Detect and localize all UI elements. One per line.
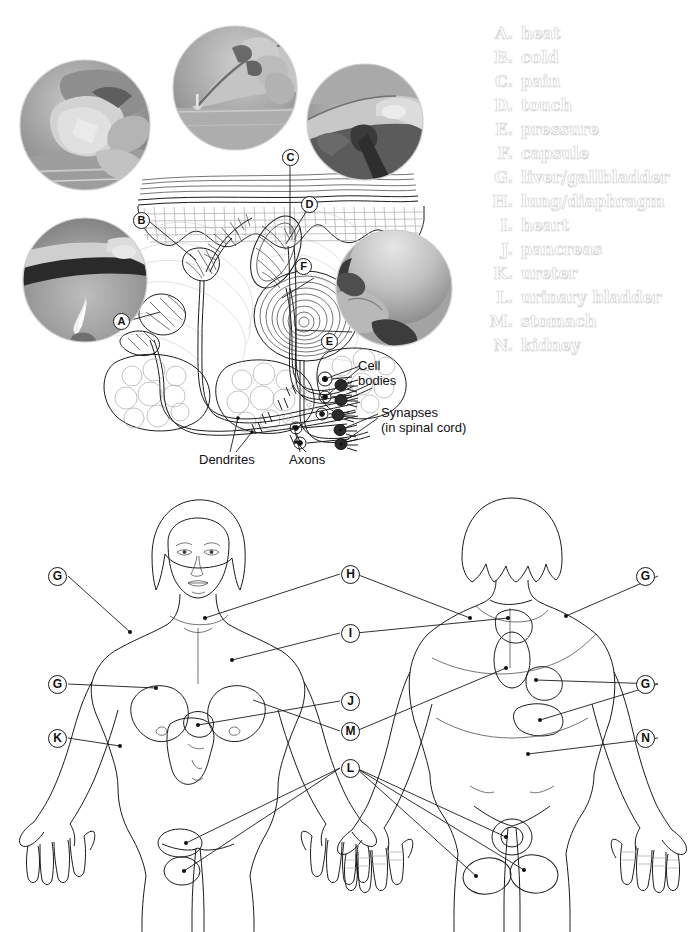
legend-letter: F. [487,142,513,166]
tag-g-back-shoulder[interactable]: G [636,567,655,586]
legend-letter: A. [487,22,513,46]
tag-b-cold[interactable]: B [133,212,150,229]
legend-letter: E. [487,118,513,142]
legend-letter: L. [487,286,513,310]
posterior-female-figure [337,498,686,932]
legend-item-i: I.heart [487,214,687,238]
legend-letter: N. [487,334,513,358]
legend-letter: I. [487,214,513,238]
tag-j-front-pancreas[interactable]: J [341,692,360,711]
krause-end-bulb-receptor [183,248,220,336]
legend-letter: D. [487,94,513,118]
tag-g-front-shoulder[interactable]: G [48,567,67,586]
anterior-female-figure [19,500,376,932]
legend-label: pain [521,72,560,91]
synapses-label: Synapses (in spinal cord) [381,405,466,435]
touch-photo [307,64,427,180]
legend-item-f: F.capsule [487,142,687,166]
tag-m-stomach[interactable]: M [341,722,360,741]
legend-letter: J. [487,238,513,262]
legend-letter: B. [487,46,513,70]
tag-g-front-liver[interactable]: G [48,675,67,694]
legend-label: liver/gallbladder [521,168,669,187]
legend-item-h: H.lung/diaphragm [487,190,687,214]
tag-a-heat[interactable]: A [113,313,130,330]
legend-letter: M. [487,310,513,334]
posterior-leaders [356,574,658,878]
legend-item-a: A.heat [487,22,687,46]
legend-item-c: C.pain [487,70,687,94]
legend-item-d: D.touch [487,94,687,118]
tag-l-bladder[interactable]: L [341,759,360,778]
tag-d-touch[interactable]: D [301,196,318,213]
legend-label: heat [521,24,561,43]
tag-i-front-heart[interactable]: I [341,624,360,643]
legend-item-l: L.urinary bladder [487,286,687,310]
legend-item-g: G.liver/gallbladder [487,166,687,190]
legend-label: urinary bladder [521,288,661,307]
axons-label: Axons [289,452,325,467]
tag-c-pain[interactable]: C [282,149,299,166]
cell-bodies-label: Cell bodies [358,358,396,388]
legend-label: pressure [521,120,599,139]
legend-label: capsule [521,144,589,163]
legend-label: lung/diaphragm [521,192,665,211]
legend-label: stomach [521,312,597,331]
legend-item-j: J.pancreas [487,238,687,262]
legend-label: heart [521,216,569,235]
legend-label: pancreas [521,240,602,259]
legend-label: cold [521,48,559,67]
legend-label: kidney [521,336,580,355]
answer-key-legend: A.heat B.cold C.pain D.touch E.pressure … [487,22,687,358]
dendrites-label: Dendrites [199,452,255,467]
skin-cross-section-panel: A B C D E F Cell bodies Synapses (in spi… [0,0,480,490]
legend-letter: H. [487,190,513,214]
legend-item-b: B.cold [487,46,687,70]
legend-item-n: N.kidney [487,334,687,358]
legend-item-e: E.pressure [487,118,687,142]
legend-letter: G. [487,166,513,190]
anterior-leaders [68,574,340,873]
legend-letter: K. [487,262,513,286]
tag-e-pressure[interactable]: E [321,333,338,350]
cold-photo [20,60,150,190]
legend-label: touch [521,96,572,115]
tag-f-capsule[interactable]: F [295,258,312,275]
tag-h-front-lung[interactable]: H [341,565,360,584]
body-figures-panel: G G K H I J M L G G N [0,488,694,932]
legend-label: ureter [521,264,577,283]
pain-photo [173,26,297,150]
diagram-page: A B C D E F Cell bodies Synapses (in spi… [0,0,694,932]
legend-letter: C. [487,70,513,94]
tag-g-back-liver[interactable]: G [636,675,655,694]
legend-item-m: M.stomach [487,310,687,334]
tag-k-front-ureter[interactable]: K [48,729,67,748]
legend-item-k: K.ureter [487,262,687,286]
tag-n-back-kidney[interactable]: N [636,729,655,748]
